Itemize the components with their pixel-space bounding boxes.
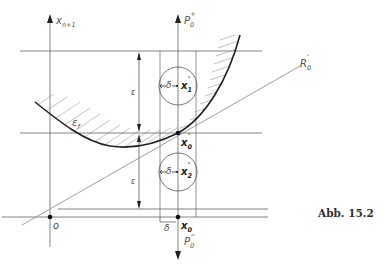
delta-bottom-bracket bbox=[160, 217, 176, 222]
figure-caption: Abb. 15.2 bbox=[318, 207, 374, 219]
x0-prime-label: x0' bbox=[181, 137, 194, 151]
delta-bottom-label: δ bbox=[164, 224, 170, 233]
epsilon-f-curve bbox=[35, 35, 240, 147]
x1-prime-label: x1' bbox=[181, 80, 194, 94]
origin-point bbox=[48, 215, 53, 220]
x2-prime-label: x2' bbox=[181, 166, 194, 180]
delta-1-label: δ bbox=[166, 81, 172, 90]
x-n1-axis-arrow-icon bbox=[47, 14, 53, 23]
epsilon-upper-label: ε bbox=[131, 89, 135, 97]
x2-prime-point bbox=[176, 171, 178, 173]
epsilon-lower-arrow-down-icon bbox=[137, 201, 141, 209]
delta-2-label: δ bbox=[166, 167, 172, 176]
epsilon-f-label: εf bbox=[72, 118, 80, 131]
p0-minus-label: P0− bbox=[184, 236, 200, 250]
r0-prime-label: R0' bbox=[300, 58, 313, 72]
origin-label: o bbox=[53, 221, 59, 231]
x0-prime-point bbox=[176, 131, 181, 136]
epsilon-lower-label: ε bbox=[131, 178, 135, 186]
x0-point bbox=[176, 215, 181, 220]
x1-prime-point bbox=[176, 85, 178, 87]
r0-prime-line bbox=[22, 66, 300, 225]
x0-label: x0 bbox=[181, 221, 192, 234]
p0-minus-arrow-icon bbox=[175, 251, 181, 260]
x-n1-axis-label: xn+1 bbox=[56, 16, 76, 29]
epsilon-upper-arrow-up-icon bbox=[137, 52, 141, 60]
p0-plus-arrow-icon bbox=[175, 14, 181, 23]
p0-plus-label: P0+ bbox=[184, 15, 200, 29]
